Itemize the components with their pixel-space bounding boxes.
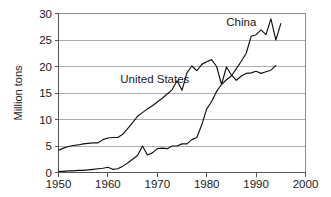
y-axis-title-text: Million tons [12,65,24,121]
x-tick-label-2000: 2000 [293,178,319,190]
y-axis: 051015202530 [39,8,58,179]
y-tick-label-0: 0 [46,167,52,179]
y-tick-label-30: 30 [39,8,52,20]
x-tick-label-1950: 1950 [46,178,72,190]
series-line-china [59,19,281,172]
x-tick-label-1980: 1980 [194,178,220,190]
y-tick-label-10: 10 [39,114,52,126]
data-series [59,19,281,172]
line-chart: 051015202530 195019601970198019902000 Ch… [0,0,331,197]
x-tick-label-1970: 1970 [145,178,171,190]
x-tick-label-1960: 1960 [95,178,121,190]
gridlines [59,40,306,146]
y-tick-label-20: 20 [39,61,52,73]
y-axis-title: Million tons [12,65,24,121]
chart-container: 051015202530 195019601970198019902000 Ch… [0,0,331,197]
series-label-united-states: United States [120,73,189,85]
series-label-china: China [226,16,257,28]
series-labels: ChinaUnited States [120,16,257,85]
x-axis: 195019601970198019902000 [46,173,319,191]
y-tick-label-5: 5 [46,140,52,152]
y-tick-label-15: 15 [39,87,52,99]
x-tick-label-1990: 1990 [243,178,269,190]
y-tick-label-25: 25 [39,34,52,46]
